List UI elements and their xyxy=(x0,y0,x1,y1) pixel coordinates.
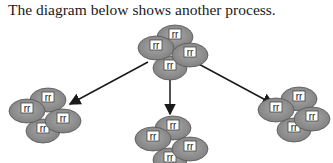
parent-cluster: rr rr rr rr xyxy=(138,25,208,80)
arrow-to-left xyxy=(70,62,148,104)
svg-text:rr: rr xyxy=(170,120,177,131)
svg-text:rr: rr xyxy=(187,141,194,152)
cell: rr xyxy=(135,127,171,151)
cell: rr xyxy=(9,99,45,123)
svg-text:rr: rr xyxy=(167,60,174,71)
arrow-to-right xyxy=(195,62,273,104)
svg-text:rr: rr xyxy=(273,102,280,113)
child-cluster-left: rr rr rr rr xyxy=(9,88,81,143)
svg-text:rr: rr xyxy=(24,103,31,114)
svg-text:rr: rr xyxy=(150,131,157,142)
cell: rr xyxy=(172,137,208,161)
cell: rr xyxy=(45,109,81,133)
cell: rr xyxy=(294,107,330,131)
cell: rr xyxy=(138,36,174,60)
process-diagram: rr rr rr rr rr rr xyxy=(0,0,333,163)
svg-text:rr: rr xyxy=(309,111,316,122)
svg-text:rr: rr xyxy=(172,29,179,40)
cell: rr xyxy=(258,98,294,122)
svg-text:rr: rr xyxy=(45,92,52,103)
cell: rr xyxy=(172,43,208,67)
svg-text:rr: rr xyxy=(296,91,303,102)
child-cluster-center: rr rr rr rr xyxy=(135,116,208,163)
svg-text:rr: rr xyxy=(153,40,160,51)
svg-text:rr: rr xyxy=(187,47,194,58)
svg-text:rr: rr xyxy=(60,113,67,124)
child-cluster-right: rr rr rr rr xyxy=(258,87,330,142)
